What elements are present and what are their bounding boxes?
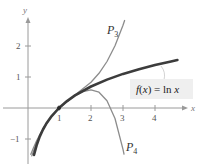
point-1-0-marker bbox=[57, 106, 61, 110]
y-axis-label: y bbox=[22, 5, 27, 15]
p4-label: P4 bbox=[125, 140, 137, 156]
x-tick-label-4: 4 bbox=[152, 113, 157, 123]
p3-label: P3 bbox=[106, 23, 118, 39]
y-tick-label-2: 2 bbox=[16, 41, 21, 51]
taylor-approximation-chart: x y 1 2 3 4 2 1 −1 P3 P4 f(x) = ln x f(x… bbox=[0, 0, 205, 164]
x-axis-arrow-icon bbox=[182, 106, 188, 111]
function-label: f(x) = ln x bbox=[136, 83, 179, 96]
function-label-leader-line bbox=[161, 66, 165, 80]
p3-curve bbox=[31, 21, 125, 155]
ln-x-curve bbox=[34, 60, 177, 155]
x-tick-label-3: 3 bbox=[120, 113, 125, 123]
x-axis-label: x bbox=[190, 103, 195, 113]
y-axis-arrow-icon bbox=[26, 17, 31, 23]
x-tick-label-2: 2 bbox=[88, 113, 93, 123]
y-tick-label-1: 1 bbox=[16, 72, 21, 82]
x-tick-label-1: 1 bbox=[57, 113, 62, 123]
y-tick-label-minus1: −1 bbox=[10, 134, 20, 144]
